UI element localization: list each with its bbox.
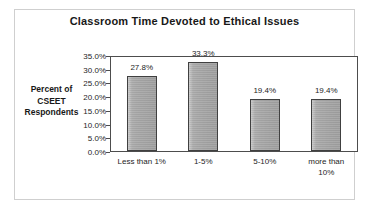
y-axis-tickmark (106, 138, 110, 139)
x-axis-category-label: 1-5% (194, 156, 213, 167)
x-axis-category-label: more than10% (308, 156, 344, 178)
bar-texture (189, 63, 217, 150)
y-axis-tickmark (106, 111, 110, 112)
bar-value-label: 19.4% (315, 86, 338, 95)
bar-texture (251, 100, 279, 150)
bar (127, 76, 157, 151)
y-axis-tick-label: 30.0% (83, 65, 106, 74)
bar-texture (128, 77, 156, 150)
x-axis-category-label: 5-10% (253, 156, 276, 167)
y-axis-tick-label: 0.0% (88, 148, 106, 157)
y-axis-tickmark (106, 56, 110, 57)
x-axis-category-labels: Less than 1%1-5%5-10%more than10% (111, 156, 357, 190)
y-axis-tickmark (106, 83, 110, 84)
y-axis-tick-label: 25.0% (83, 79, 106, 88)
x-axis-category-label-line: 5-10% (253, 156, 276, 167)
y-axis-tick-label: 10.0% (83, 120, 106, 129)
bar (311, 99, 341, 151)
bar-slot (296, 57, 358, 151)
x-axis-category-label-line: 1-5% (194, 156, 213, 167)
x-axis-category-label-line: Less than 1% (118, 156, 166, 167)
y-axis-tickmark (106, 97, 110, 98)
x-axis-category-label-line: more than (308, 156, 344, 167)
y-axis-tick-labels: 35.0%30.0%25.0%20.0%15.0%10.0%5.0%0.0% (72, 56, 106, 152)
bar-slot (173, 57, 235, 151)
chart-title: Classroom Time Devoted to Ethical Issues (14, 15, 355, 27)
x-axis-category-label-line: 10% (308, 167, 344, 178)
y-axis-tick-label: 35.0% (83, 52, 106, 61)
bar-slot (234, 57, 296, 151)
y-axis-tickmark (106, 152, 110, 153)
y-axis-tick-label: 15.0% (83, 106, 106, 115)
y-axis-tickmark (106, 70, 110, 71)
y-axis-tick-label: 20.0% (83, 93, 106, 102)
bar-texture (312, 100, 340, 150)
bar (250, 99, 280, 151)
bar-value-label: 19.4% (253, 86, 276, 95)
x-axis-category-label: Less than 1% (118, 156, 166, 167)
y-axis-tick-label: 5.0% (88, 134, 106, 143)
bar-value-label: 33.3% (192, 49, 215, 58)
bar-value-label: 27.8% (130, 63, 153, 72)
y-axis-tickmark (106, 125, 110, 126)
chart-figure: Classroom Time Devoted to Ethical Issues… (0, 0, 370, 214)
bar (188, 62, 218, 151)
